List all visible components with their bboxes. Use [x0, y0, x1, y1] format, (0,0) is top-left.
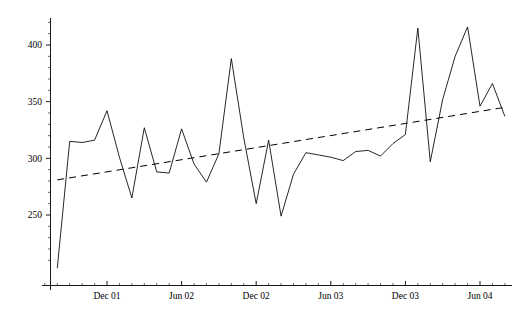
- data-series-line: [57, 27, 505, 268]
- x-axis-tick-label: Jun 04: [467, 291, 492, 301]
- y-axis-tick-label: 400: [28, 40, 43, 50]
- y-axis-tick-label: 300: [28, 154, 43, 164]
- x-axis-tick-label: Jun 03: [318, 291, 343, 301]
- x-axis-tick-labels: Dec 01Jun 02Dec 02Jun 03Dec 03Jun 04: [93, 291, 492, 301]
- x-axis-tick-label: Dec 02: [243, 291, 270, 301]
- y-axis-major-ticks: [46, 45, 51, 215]
- y-axis-group: 250300350400: [28, 18, 51, 290]
- x-axis-group: Dec 01Jun 02Dec 02Jun 03Dec 03Jun 04: [42, 281, 512, 301]
- y-axis-tick-label: 250: [28, 210, 43, 220]
- y-axis-tick-labels: 250300350400: [28, 40, 43, 220]
- chart-figure: 250300350400 Dec 01Jun 02Dec 02Jun 03Dec…: [0, 0, 518, 316]
- y-axis-tick-label: 350: [28, 97, 43, 107]
- line-chart-canvas: 250300350400 Dec 01Jun 02Dec 02Jun 03Dec…: [0, 0, 518, 316]
- x-axis-tick-label: Dec 01: [93, 291, 120, 301]
- x-axis-tick-label: Dec 03: [392, 291, 419, 301]
- trend-line: [57, 107, 505, 180]
- x-axis-tick-label: Jun 02: [169, 291, 194, 301]
